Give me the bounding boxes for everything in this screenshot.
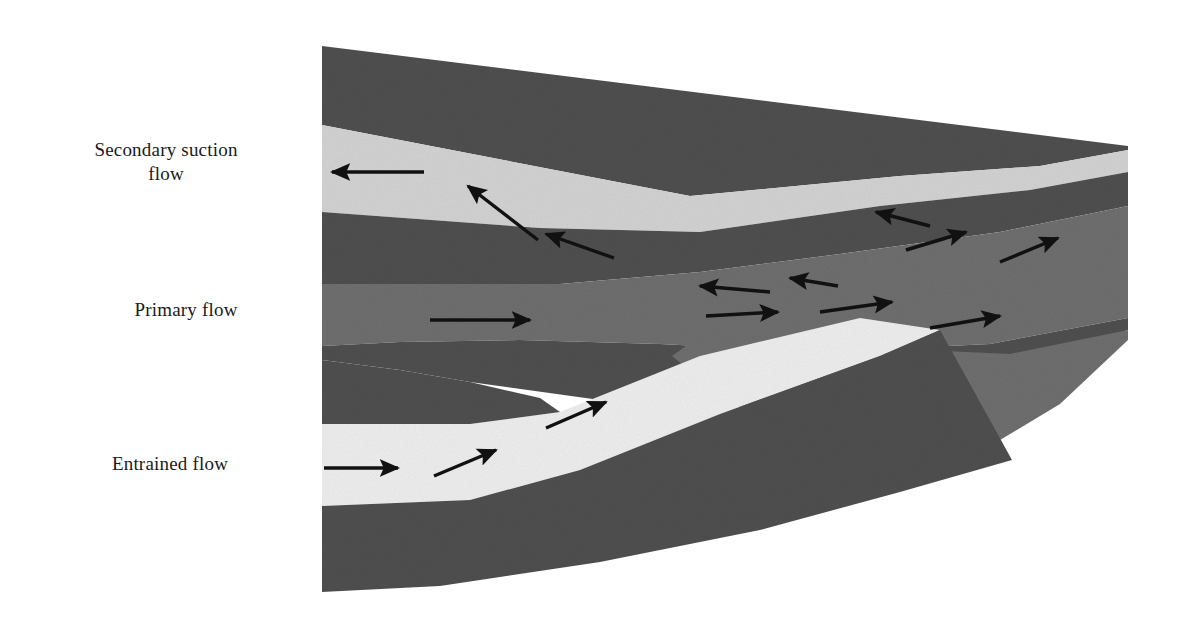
label-secondary-suction-flow: Secondary suction flow (46, 138, 286, 187)
label-entrained-flow: Entrained flow (64, 452, 276, 476)
flow-diagram-figure: Secondary suction flow Primary flow Entr… (0, 0, 1194, 636)
label-primary-flow: Primary flow (86, 298, 286, 322)
